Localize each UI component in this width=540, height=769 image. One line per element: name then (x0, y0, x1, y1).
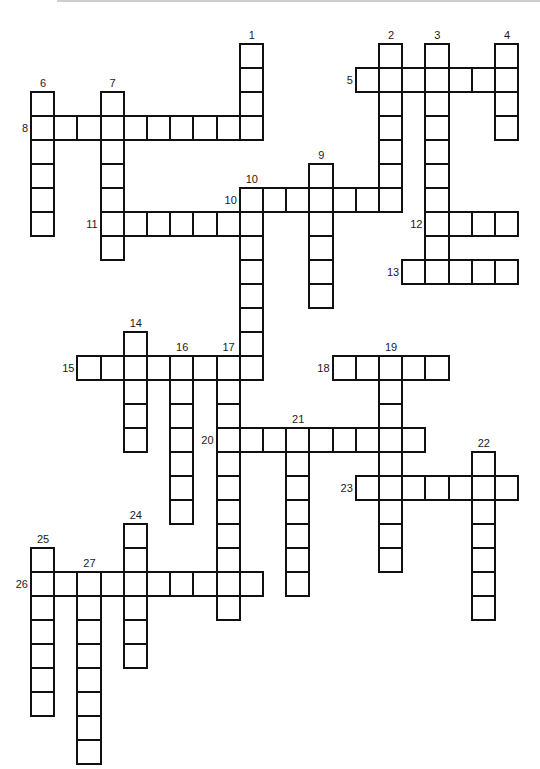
crossword-cell[interactable] (30, 595, 55, 621)
crossword-cell[interactable] (30, 547, 55, 573)
cell-letter-input[interactable] (125, 597, 146, 619)
crossword-cell[interactable] (378, 163, 403, 189)
cell-letter-input[interactable] (380, 117, 401, 139)
crossword-cell[interactable] (239, 355, 264, 381)
cell-letter-input[interactable] (357, 357, 378, 379)
crossword-cell[interactable] (448, 211, 473, 237)
cell-letter-input[interactable] (426, 141, 447, 163)
crossword-cell[interactable] (378, 499, 403, 525)
cell-letter-input[interactable] (241, 309, 262, 331)
cell-letter-input[interactable] (241, 357, 262, 379)
crossword-cell[interactable] (146, 211, 171, 237)
crossword-cell[interactable] (239, 211, 264, 237)
cell-letter-input[interactable] (403, 261, 424, 283)
cell-letter-input[interactable] (32, 117, 53, 139)
crossword-cell[interactable] (494, 475, 519, 501)
crossword-cell[interactable] (123, 523, 148, 549)
cell-letter-input[interactable] (78, 621, 99, 643)
crossword-cell[interactable] (378, 403, 403, 429)
cell-letter-input[interactable] (380, 429, 401, 451)
cell-letter-input[interactable] (426, 477, 447, 499)
cell-letter-input[interactable] (426, 45, 447, 67)
crossword-cell[interactable] (30, 211, 55, 237)
crossword-cell[interactable] (30, 691, 55, 717)
crossword-cell[interactable] (424, 259, 449, 285)
cell-letter-input[interactable] (241, 117, 262, 139)
crossword-cell[interactable] (378, 427, 403, 453)
crossword-cell[interactable] (308, 187, 333, 213)
cell-letter-input[interactable] (55, 573, 76, 595)
crossword-cell[interactable] (285, 547, 310, 573)
crossword-cell[interactable] (355, 67, 380, 93)
cell-letter-input[interactable] (334, 189, 355, 211)
cell-letter-input[interactable] (426, 93, 447, 115)
cell-letter-input[interactable] (473, 549, 494, 571)
crossword-cell[interactable] (378, 547, 403, 573)
cell-letter-input[interactable] (496, 69, 517, 91)
crossword-cell[interactable] (76, 715, 101, 741)
crossword-cell[interactable] (100, 235, 125, 261)
cell-letter-input[interactable] (125, 549, 146, 571)
crossword-cell[interactable] (285, 451, 310, 477)
cell-letter-input[interactable] (125, 213, 146, 235)
cell-letter-input[interactable] (310, 189, 331, 211)
crossword-cell[interactable] (401, 355, 426, 381)
cell-letter-input[interactable] (287, 549, 308, 571)
cell-letter-input[interactable] (32, 549, 53, 571)
cell-letter-input[interactable] (218, 117, 239, 139)
crossword-cell[interactable] (192, 211, 217, 237)
crossword-cell[interactable] (216, 427, 241, 453)
crossword-cell[interactable] (285, 499, 310, 525)
cell-letter-input[interactable] (426, 117, 447, 139)
crossword-cell[interactable] (76, 667, 101, 693)
crossword-cell[interactable] (123, 211, 148, 237)
cell-letter-input[interactable] (102, 573, 123, 595)
cell-letter-input[interactable] (171, 117, 192, 139)
crossword-cell[interactable] (123, 331, 148, 357)
cell-letter-input[interactable] (171, 405, 192, 427)
crossword-cell[interactable] (123, 547, 148, 573)
cell-letter-input[interactable] (32, 669, 53, 691)
cell-letter-input[interactable] (194, 573, 215, 595)
crossword-cell[interactable] (239, 235, 264, 261)
crossword-cell[interactable] (123, 403, 148, 429)
crossword-cell[interactable] (424, 115, 449, 141)
cell-letter-input[interactable] (171, 573, 192, 595)
cell-letter-input[interactable] (102, 213, 123, 235)
cell-letter-input[interactable] (357, 69, 378, 91)
crossword-cell[interactable] (471, 475, 496, 501)
crossword-cell[interactable] (76, 739, 101, 765)
crossword-cell[interactable] (30, 619, 55, 645)
crossword-cell[interactable] (378, 379, 403, 405)
crossword-cell[interactable] (378, 91, 403, 117)
cell-letter-input[interactable] (102, 189, 123, 211)
crossword-cell[interactable] (424, 235, 449, 261)
crossword-cell[interactable] (471, 523, 496, 549)
crossword-cell[interactable] (123, 595, 148, 621)
crossword-cell[interactable] (216, 571, 241, 597)
crossword-cell[interactable] (401, 259, 426, 285)
crossword-cell[interactable] (239, 307, 264, 333)
crossword-cell[interactable] (169, 379, 194, 405)
crossword-cell[interactable] (332, 355, 357, 381)
cell-letter-input[interactable] (102, 357, 123, 379)
cell-letter-input[interactable] (357, 477, 378, 499)
crossword-cell[interactable] (192, 571, 217, 597)
crossword-cell[interactable] (146, 115, 171, 141)
cell-letter-input[interactable] (125, 117, 146, 139)
crossword-cell[interactable] (169, 499, 194, 525)
cell-letter-input[interactable] (473, 453, 494, 475)
crossword-cell[interactable] (123, 355, 148, 381)
crossword-cell[interactable] (308, 427, 333, 453)
crossword-cell[interactable] (100, 115, 125, 141)
cell-letter-input[interactable] (264, 429, 285, 451)
crossword-cell[interactable] (30, 115, 55, 141)
cell-letter-input[interactable] (218, 381, 239, 403)
cell-letter-input[interactable] (287, 501, 308, 523)
cell-letter-input[interactable] (310, 165, 331, 187)
cell-letter-input[interactable] (496, 213, 517, 235)
crossword-cell[interactable] (76, 691, 101, 717)
cell-letter-input[interactable] (496, 93, 517, 115)
crossword-cell[interactable] (332, 187, 357, 213)
cell-letter-input[interactable] (125, 381, 146, 403)
